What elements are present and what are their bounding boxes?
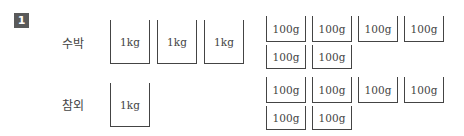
weight-box-1kg: 1kg <box>204 20 244 64</box>
weight-box-100g: 100g <box>312 16 352 42</box>
weight-box-100g: 100g <box>266 45 306 69</box>
weight-box-100g: 100g <box>358 77 398 103</box>
weight-box-100g: 100g <box>312 77 352 103</box>
weight-box-100g: 100g <box>312 45 352 69</box>
weight-box-100g: 100g <box>404 77 444 103</box>
weight-box-100g: 100g <box>266 106 306 130</box>
weight-box-1kg: 1kg <box>157 20 197 64</box>
weight-box-100g: 100g <box>404 16 444 42</box>
item-label-watermelon: 수박 <box>62 34 84 51</box>
weight-box-1kg: 1kg <box>110 83 150 127</box>
item-label-korean-melon: 참외 <box>62 96 84 113</box>
weight-box-100g: 100g <box>266 77 306 103</box>
weight-box-100g: 100g <box>312 106 352 130</box>
weight-box-100g: 100g <box>266 16 306 42</box>
weight-box-100g: 100g <box>358 16 398 42</box>
problem-number-badge: 1 <box>14 13 29 28</box>
weight-box-1kg: 1kg <box>110 20 150 64</box>
